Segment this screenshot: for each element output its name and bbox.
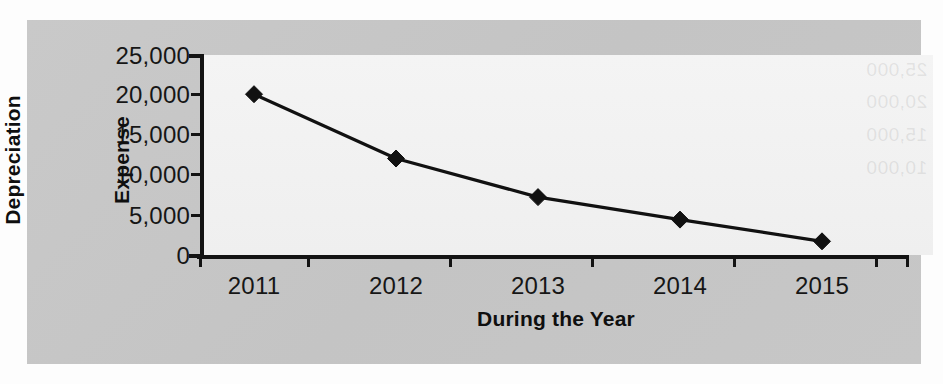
x-tick-label-2015: 2015 — [795, 272, 849, 300]
x-tick-label-2012: 2012 — [369, 272, 423, 300]
x-axis-tick-5 — [875, 258, 878, 267]
x-axis-title: During the Year — [200, 307, 912, 331]
y-axis-tick-25000 — [189, 54, 202, 58]
bleedthrough-text-4: 10,000 — [866, 157, 927, 179]
y-axis-tick-5000 — [191, 214, 201, 217]
y-axis-tick-15000 — [191, 133, 201, 136]
y-tick-label-5000: 5,000 — [72, 202, 190, 230]
x-axis-line — [197, 255, 909, 259]
y-axis-title-line-1: Depreciation — [1, 95, 25, 225]
y-axis-line — [200, 54, 204, 257]
bleedthrough-text-3: 15,000 — [866, 124, 927, 146]
plot-area: 25,000 20,000 15,000 10,000 — [200, 55, 933, 255]
y-tick-label-20000: 20,000 — [72, 81, 190, 109]
y-axis-tick-20000 — [191, 93, 201, 96]
bleedthrough-text-2: 20,000 — [866, 91, 927, 113]
y-tick-label-25000: 25,000 — [72, 42, 190, 70]
x-tick-label-2014: 2014 — [653, 272, 707, 300]
y-axis-title: Depreciation Expense — [30, 60, 84, 260]
y-axis-title-line-2: Expense — [110, 116, 134, 204]
x-axis-tick-6 — [906, 258, 909, 267]
x-tick-label-2011: 2011 — [228, 272, 280, 300]
x-axis-tick-3 — [591, 258, 594, 267]
bleedthrough-text-1: 25,000 — [866, 59, 927, 81]
x-axis-tick-4 — [733, 258, 736, 267]
x-axis-tick-2 — [449, 258, 452, 267]
x-tick-label-2013: 2013 — [511, 272, 565, 300]
x-axis-tick-0 — [199, 258, 202, 267]
y-tick-label-0: 0 — [72, 242, 190, 270]
y-axis-tick-10000 — [191, 173, 201, 176]
x-axis-tick-1 — [307, 258, 310, 267]
page-canvas: 25,000 20,000 15,000 10,000 25,000 20,00… — [0, 0, 943, 384]
